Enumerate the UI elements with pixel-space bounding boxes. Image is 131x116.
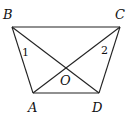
label-d: D xyxy=(91,100,103,115)
trapezoid-diagram: B C A D O 1 2 xyxy=(0,0,131,116)
label-c: C xyxy=(115,7,125,22)
label-b: B xyxy=(2,7,13,22)
diagonal-ac xyxy=(33,27,120,93)
label-o: O xyxy=(60,73,71,88)
diagonal-bd xyxy=(12,27,99,93)
segment-cd xyxy=(99,27,120,93)
segment-ab xyxy=(12,27,33,93)
angle-label-2: 2 xyxy=(101,44,108,57)
label-a: A xyxy=(27,100,37,115)
angle-label-1: 1 xyxy=(22,46,29,59)
